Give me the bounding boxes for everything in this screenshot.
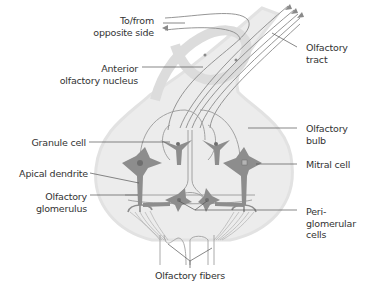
label-line: tract [306,54,366,66]
label-line: opposite side [80,27,154,39]
label-olfactory-bulb: Olfactory bulb [306,123,366,146]
label-olfactory-tract: Olfactory tract [306,42,366,65]
label-line: olfactory nucleus [50,75,138,87]
label-olfactory-fibers: Olfactory fibers [140,270,240,282]
label-anterior-olfactory-nucleus: Anterior olfactory nucleus [50,63,138,86]
label-line: Olfactory [20,191,87,203]
label-line: Granule cell [10,137,86,149]
label-apical-dendrite: Apical dendrite [4,168,88,180]
label-line: Peri- [306,206,371,218]
label-line: Apical dendrite [4,168,88,180]
label-line: bulb [306,135,366,147]
label-olfactory-glomerulus: Olfactory glomerulus [20,191,87,214]
label-line: Olfactory [306,123,366,135]
label-line: To/from [80,15,154,27]
label-line: Olfactory [306,42,366,54]
label-line: glomerular [306,218,371,230]
label-line: Olfactory fibers [140,270,240,282]
label-line: Mitral cell [306,159,371,171]
label-line: Anterior [50,63,138,75]
label-mitral-cell: Mitral cell [306,159,371,171]
label-granule-cell: Granule cell [10,137,86,149]
label-periglomerular-cells: Peri- glomerular cells [306,206,371,241]
label-line: glomerulus [20,203,87,215]
label-to-from-opposite-side: To/from opposite side [80,15,154,38]
label-line: cells [306,229,371,241]
